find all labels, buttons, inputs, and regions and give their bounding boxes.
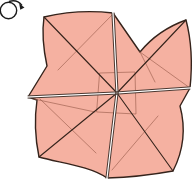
origami-step-figure <box>0 0 195 181</box>
origami-diagram-panel <box>0 0 195 181</box>
